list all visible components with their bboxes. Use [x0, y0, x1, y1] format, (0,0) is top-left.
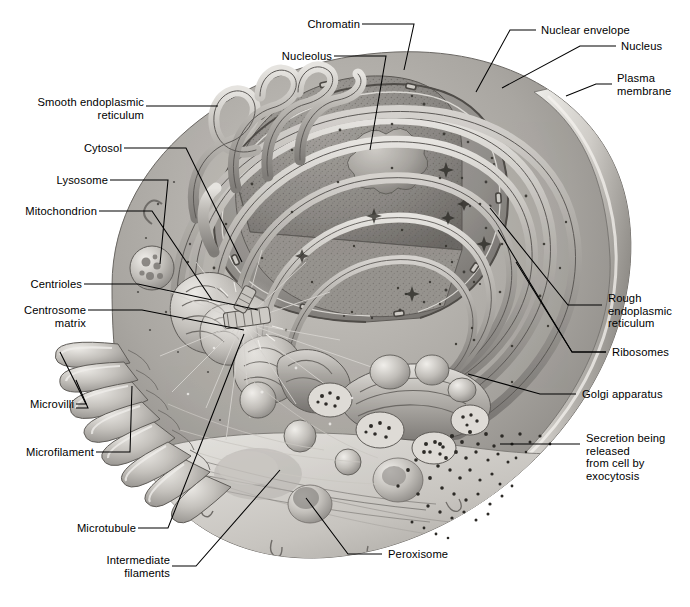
label-rough-endoplasmic-reticulum: Rough endoplasmic reticulum [608, 292, 690, 330]
label-nuclear-envelope: Nuclear envelope [541, 24, 689, 37]
label-secretion-exocytosis: Secretion being released from cell by ex… [586, 432, 690, 482]
label-chromatin: Chromatin [0, 18, 360, 31]
label-nucleus: Nucleus [621, 40, 689, 53]
label-golgi-apparatus: Golgi apparatus [582, 388, 690, 401]
leader-plasma-membrane [566, 84, 612, 96]
label-nucleolus: Nucleolus [0, 50, 332, 63]
label-microvilli: Microvilli [0, 398, 74, 411]
label-microtubule: Microtubule [0, 522, 136, 535]
label-centrosome-matrix: Centrosome matrix [0, 304, 86, 329]
animal-cell-illustration [0, 0, 690, 607]
label-ribosomes: Ribosomes [612, 346, 690, 359]
label-peroxisome: Peroxisome [388, 548, 498, 561]
label-plasma-membrane: Plasma membrane [617, 72, 689, 97]
label-intermediate-filaments: Intermediate filaments [0, 554, 170, 579]
label-mitochondrion: Mitochondrion [0, 205, 97, 218]
label-centrioles: Centrioles [0, 278, 82, 291]
label-smooth-endoplasmic-reticulum: Smooth endoplasmic reticulum [0, 96, 144, 121]
label-cytosol: Cytosol [0, 142, 122, 155]
label-lysosome: Lysosome [0, 174, 108, 187]
label-microfilament: Microfilament [0, 446, 94, 459]
cell-diagram-figure: Smooth endoplasmic reticulum Cytosol Lys… [0, 0, 690, 607]
lysosome [130, 246, 174, 290]
